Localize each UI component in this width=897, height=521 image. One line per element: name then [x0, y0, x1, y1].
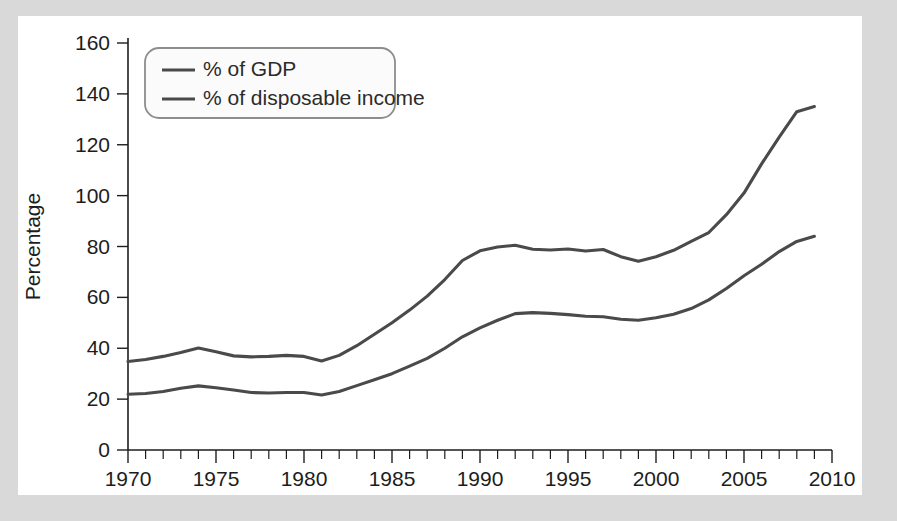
y-tick-label: 80	[87, 235, 110, 258]
y-tick-label: 100	[75, 184, 110, 207]
chart-legend: % of GDP% of disposable income	[145, 48, 425, 118]
y-tick-label: 60	[87, 285, 110, 308]
x-tick-label: 1985	[369, 467, 416, 490]
y-tick-label: 120	[75, 133, 110, 156]
x-tick-label: 2010	[809, 467, 856, 490]
x-axis: 197019751980198519901995200020052010	[105, 450, 856, 490]
data-series-group	[128, 107, 814, 395]
x-tick-label: 1980	[281, 467, 328, 490]
x-tick-label: 2005	[721, 467, 768, 490]
legend-label-1: % of disposable income	[203, 86, 425, 109]
legend-label-0: % of GDP	[203, 57, 296, 80]
y-axis: 020406080100120140160	[75, 31, 128, 461]
y-tick-label: 20	[87, 387, 110, 410]
x-tick-label: 1970	[105, 467, 152, 490]
y-tick-label: 160	[75, 31, 110, 54]
y-axis-title: Percentage	[21, 193, 44, 300]
line-chart: 020406080100120140160 197019751980198519…	[18, 16, 862, 495]
y-tick-label: 140	[75, 82, 110, 105]
y-tick-label: 0	[98, 438, 110, 461]
x-tick-label: 1975	[193, 467, 240, 490]
data-line-series-0	[128, 107, 814, 362]
x-tick-label: 1995	[545, 467, 592, 490]
data-line-series-1	[128, 236, 814, 395]
x-tick-label: 1990	[457, 467, 504, 490]
figure-panel: 020406080100120140160 197019751980198519…	[18, 16, 862, 495]
y-tick-label: 40	[87, 336, 110, 359]
x-tick-label: 2000	[633, 467, 680, 490]
